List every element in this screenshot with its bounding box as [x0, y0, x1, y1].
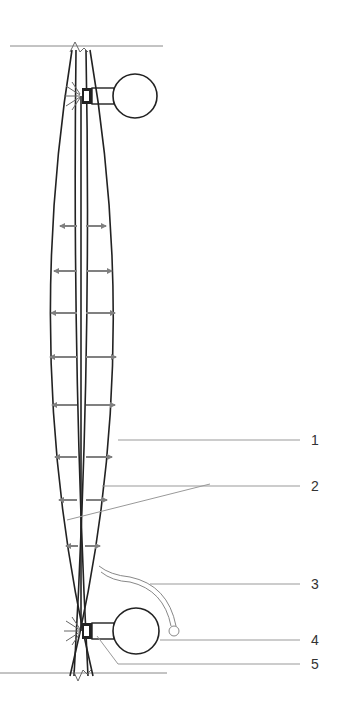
spindle-body [50, 50, 113, 676]
top-rotor-circle [113, 74, 157, 118]
tube-end-circle [169, 626, 179, 636]
label-3: 3 [311, 577, 319, 591]
bottom-rotor-assembly [64, 608, 159, 654]
bottom-connector [92, 623, 114, 639]
top-star-icon [64, 82, 80, 110]
spindle-diagram [0, 0, 338, 722]
label-4: 4 [311, 633, 319, 647]
label-2: 2 [311, 479, 319, 493]
top-connector [92, 88, 114, 104]
top-rotor-assembly [64, 74, 157, 118]
leader-2b [67, 484, 210, 520]
bottom-rotor-circle [113, 608, 159, 654]
label-5: 5 [311, 657, 319, 671]
label-1: 1 [311, 433, 319, 447]
leader-lines [67, 440, 300, 664]
